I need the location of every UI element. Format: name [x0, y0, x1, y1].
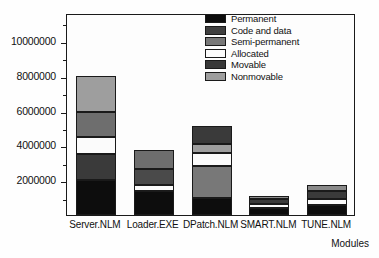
y-axis-minor-tick [63, 95, 67, 96]
y-axis-tick [61, 78, 67, 79]
y-axis-tick-label: 8000000 [0, 70, 56, 82]
bar-segment [76, 112, 116, 136]
bar-segment [192, 166, 232, 197]
chart-figure: 200000040000006000000800000010000000 Ser… [0, 0, 379, 258]
bar-stack [307, 13, 347, 215]
legend-item: Allocated [205, 48, 293, 60]
bar-segment [134, 185, 174, 191]
legend-swatch-icon [205, 49, 226, 58]
bar-segment [307, 199, 347, 204]
y-axis-tick [61, 113, 67, 114]
x-axis-title: Modules [331, 238, 369, 249]
bar-segment [76, 76, 116, 113]
bar-segment [134, 191, 174, 215]
bar-segment [249, 204, 289, 208]
bar-segment [307, 185, 347, 191]
bar-segment [192, 144, 232, 153]
bar-segment [307, 205, 347, 215]
bar-segment [249, 208, 289, 215]
legend-swatch-icon [205, 26, 226, 35]
bar-segment [307, 191, 347, 199]
legend-item-label: Code and data [231, 25, 291, 36]
legend-swatch-icon [205, 72, 226, 81]
legend-item: Semi-permanent [205, 36, 293, 48]
bar-stack [134, 13, 174, 215]
bar-segment [192, 198, 232, 215]
y-axis-minor-tick [63, 200, 67, 201]
legend-item-label: Nonmovable [231, 71, 283, 82]
x-axis-tick-label: TUNE.NLM [286, 219, 366, 230]
y-axis-minor-tick [63, 165, 67, 166]
y-axis-tick-label: 2000000 [0, 174, 56, 186]
bar-stack [76, 13, 116, 215]
bar-segment [192, 153, 232, 166]
legend-swatch-icon [205, 60, 226, 69]
legend-item-label: Allocated [231, 48, 269, 59]
y-axis-minor-tick [63, 25, 67, 26]
legend-swatch-icon [205, 14, 226, 23]
legend-item: Permanent [205, 13, 293, 25]
bar-segment [76, 180, 116, 215]
y-axis-tick-label: 6000000 [0, 105, 56, 117]
bar-segment [134, 169, 174, 185]
legend-item: Movable [205, 59, 293, 71]
legend-swatch-icon [205, 37, 226, 46]
y-axis-minor-tick [63, 130, 67, 131]
legend-item-label: Semi-permanent [231, 36, 299, 47]
y-axis-tick [61, 147, 67, 148]
legend-item-label: Movable [231, 59, 266, 70]
legend-item-label: Permanent [231, 13, 276, 24]
bar-segment [76, 154, 116, 180]
legend: PermanentCode and dataSemi-permanentAllo… [203, 11, 295, 84]
bar-segment [134, 150, 174, 169]
y-axis-tick [61, 43, 67, 44]
bar-segment [76, 137, 116, 154]
y-axis-minor-tick [63, 60, 67, 61]
y-axis-tick-label: 4000000 [0, 139, 56, 151]
legend-item: Code and data [205, 25, 293, 37]
y-axis-tick [61, 182, 67, 183]
legend-item: Nonmovable [205, 71, 293, 83]
bar-segment [249, 196, 289, 199]
bar-segment [192, 126, 232, 144]
bar-segment [249, 199, 289, 203]
y-axis-tick-label: 10000000 [0, 35, 56, 47]
